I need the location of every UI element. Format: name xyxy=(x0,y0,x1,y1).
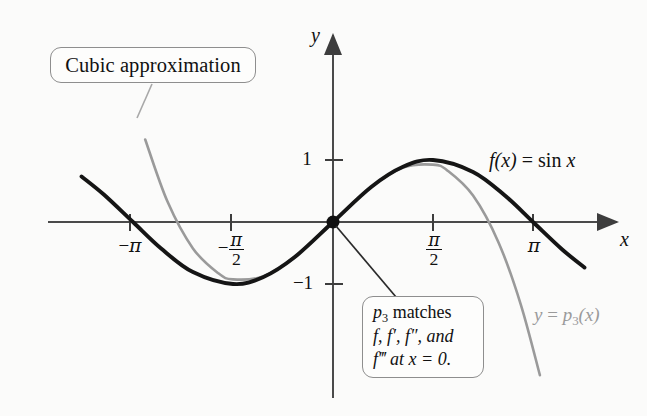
tick-label-one: 1 xyxy=(296,148,318,170)
sine-curve-label: f(x) = sin x xyxy=(489,149,575,172)
p3-callout-line-2: f, f′, f″, and xyxy=(369,326,477,347)
y-axis-label: y xyxy=(311,24,320,47)
cubic-approximation-callout: Cubic approximation xyxy=(50,47,256,83)
cubic-curve-label: y = p3(x) xyxy=(534,304,600,329)
cubic-callout-leader-line xyxy=(137,84,152,118)
tick-label-pi-over-2: π2 xyxy=(414,231,454,268)
cubic-approximation-label: Cubic approximation xyxy=(65,53,241,77)
tick-label-neg-pi-over-2: −π2 xyxy=(206,231,256,268)
tick-label-neg-pi: −π xyxy=(110,234,150,257)
tick-label-pi: π xyxy=(518,234,550,257)
tick-label-neg-one: −1 xyxy=(288,272,318,294)
x-axis-label: x xyxy=(620,228,629,251)
p3-matches-callout: p3 matches f, f′, f″, and f‴ at x = 0. xyxy=(362,296,484,378)
p3-callout-leader-line xyxy=(336,226,396,297)
p3-callout-line-3: f‴ at x = 0. xyxy=(369,349,477,370)
p3-callout-line-1: p3 matches xyxy=(369,302,477,325)
